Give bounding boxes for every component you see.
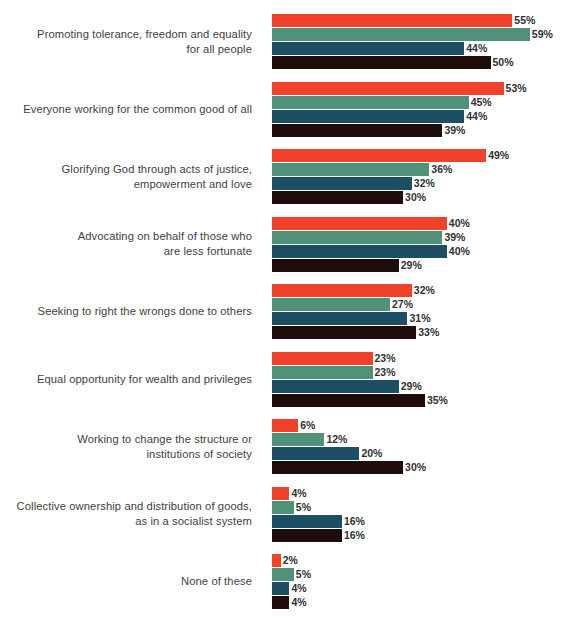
chart-row: Working to change the structure or insti… [0,413,564,481]
bar-value-label: 33% [418,326,439,339]
bar-line: 49% [272,149,564,163]
bar-value-label: 16% [344,529,365,542]
bar-series-2 [272,433,324,446]
bar-group: 53%45%44%39% [262,81,564,137]
bar-value-label: 36% [431,163,452,176]
category-label: Promoting tolerance, freedom and equalit… [0,27,262,57]
bar-line: 44% [272,42,564,56]
bar-value-label: 5% [296,501,311,514]
bar-series-1 [272,487,289,500]
chart-row: Everyone working for the common good of … [0,76,564,144]
bar-series-4 [272,461,403,474]
bar-value-label: 6% [300,419,315,432]
bar-line: 29% [272,379,564,393]
chart-row: Advocating on behalf of those who are le… [0,211,564,279]
bar-series-1 [272,554,281,567]
bar-line: 31% [272,312,564,326]
bar-value-label: 39% [444,124,465,137]
bar-value-label: 44% [466,42,487,55]
bar-series-4 [272,56,491,69]
bar-series-1 [272,284,412,297]
bar-line: 55% [272,14,564,28]
chart-row: Seeking to right the wrongs done to othe… [0,278,564,346]
bar-value-label: 23% [375,366,396,379]
bar-series-1 [272,149,486,162]
bar-series-2 [272,28,530,41]
bar-group: 55%59%44%50% [262,14,564,70]
bar-value-label: 32% [414,177,435,190]
bar-value-label: 59% [532,28,553,41]
bar-line: 53% [272,81,564,95]
bar-value-label: 29% [401,259,422,272]
bar-line: 27% [272,298,564,312]
chart-rows: Promoting tolerance, freedom and equalit… [0,8,564,616]
bar-group: 32%27%31%33% [262,284,564,340]
bar-series-2 [272,163,429,176]
bar-group: 40%39%40%29% [262,216,564,272]
grouped-bar-chart: Promoting tolerance, freedom and equalit… [0,0,564,618]
bar-line: 5% [272,568,564,582]
bar-line: 16% [272,528,564,542]
bar-series-4 [272,124,442,137]
bar-series-4 [272,596,289,609]
bar-line: 29% [272,258,564,272]
bar-line: 33% [272,326,564,340]
bar-series-4 [272,191,403,204]
bar-line: 40% [272,216,564,230]
bar-group: 49%36%32%30% [262,149,564,205]
bar-line: 4% [272,486,564,500]
bar-value-label: 20% [361,447,382,460]
bar-series-2 [272,501,294,514]
bar-series-1 [272,419,298,432]
bar-series-2 [272,96,469,109]
bar-series-4 [272,529,342,542]
bar-value-label: 44% [466,110,487,123]
bar-series-3 [272,177,412,190]
bar-value-label: 40% [449,245,470,258]
bar-line: 16% [272,514,564,528]
bar-value-label: 4% [291,487,306,500]
bar-value-label: 45% [471,96,492,109]
bar-value-label: 23% [375,352,396,365]
bar-value-label: 35% [427,394,448,407]
bar-line: 30% [272,461,564,475]
category-label: Everyone working for the common good of … [0,102,262,117]
bar-line: 30% [272,191,564,205]
chart-row: Equal opportunity for wealth and privile… [0,346,564,414]
category-label: Equal opportunity for wealth and privile… [0,372,262,387]
bar-line: 44% [272,109,564,123]
bar-series-3 [272,515,342,528]
bar-value-label: 31% [409,312,430,325]
bar-value-label: 40% [449,217,470,230]
bar-value-label: 5% [296,568,311,581]
bar-line: 23% [272,365,564,379]
bar-series-3 [272,312,407,325]
bar-line: 6% [272,419,564,433]
bar-series-4 [272,394,425,407]
chart-row: Glorifying God through acts of justice, … [0,143,564,211]
bar-line: 39% [272,123,564,137]
category-label: Seeking to right the wrongs done to othe… [0,304,262,319]
bar-value-label: 50% [493,56,514,69]
bar-value-label: 29% [401,380,422,393]
bar-value-label: 30% [405,461,426,474]
bar-line: 59% [272,28,564,42]
bar-series-3 [272,380,399,393]
bar-series-3 [272,582,289,595]
category-label: Working to change the structure or insti… [0,432,262,462]
bar-series-1 [272,217,447,230]
category-label: Advocating on behalf of those who are le… [0,229,262,259]
bar-line: 39% [272,230,564,244]
bar-group: 6%12%20%30% [262,419,564,475]
bar-value-label: 55% [514,14,535,27]
bar-value-label: 30% [405,191,426,204]
bar-line: 12% [272,433,564,447]
bar-line: 32% [272,177,564,191]
bar-line: 2% [272,554,564,568]
category-label: Glorifying God through acts of justice, … [0,162,262,192]
bar-series-2 [272,366,373,379]
chart-row: Collective ownership and distribution of… [0,481,564,549]
bar-line: 4% [272,582,564,596]
bar-group: 2%5%4%4% [262,554,564,610]
bar-line: 5% [272,500,564,514]
